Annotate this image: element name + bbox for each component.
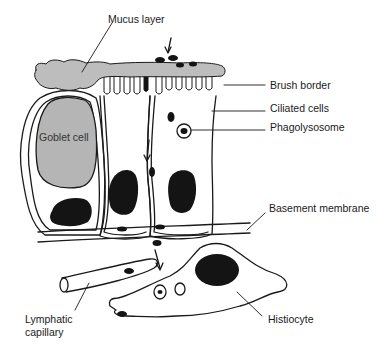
label-ciliated-cells: Ciliated cells bbox=[270, 102, 329, 114]
label-histiocyte: Histiocyte bbox=[268, 313, 314, 325]
lymphatic-capillary bbox=[62, 259, 157, 292]
label-mucus-layer: Mucus layer bbox=[108, 13, 165, 25]
histiocyte-nucleus bbox=[195, 254, 239, 286]
histiocyte-outline bbox=[109, 244, 286, 317]
ciliated-cell-2-outline bbox=[147, 96, 216, 239]
label-phagolysosome: Phagolysosome bbox=[270, 121, 345, 133]
goblet-nucleus bbox=[50, 198, 92, 226]
label-lymphatic-capillary-line1: Lymphatic bbox=[25, 313, 72, 325]
epithelium-illustration bbox=[0, 0, 390, 350]
ciliated-cell-2-nucleus bbox=[168, 170, 196, 213]
label-brush-border: Brush border bbox=[270, 79, 331, 91]
inhaled-particle bbox=[155, 57, 165, 63]
leader-lymphatic bbox=[75, 283, 89, 310]
diagram-canvas: Mucus layer Brush border Ciliated cells … bbox=[0, 0, 390, 350]
histiocyte-vacuole bbox=[175, 283, 185, 295]
label-goblet-cell: Goblet cell bbox=[39, 131, 89, 143]
leader-basement bbox=[247, 213, 265, 230]
leader-histiocyte bbox=[237, 292, 262, 316]
label-lymphatic-capillary-line2: capillary bbox=[25, 326, 64, 338]
ciliated-cell-1-nucleus bbox=[109, 170, 138, 215]
label-basement-membrane: Basement membrane bbox=[269, 202, 369, 214]
migrating-particle bbox=[149, 167, 155, 177]
